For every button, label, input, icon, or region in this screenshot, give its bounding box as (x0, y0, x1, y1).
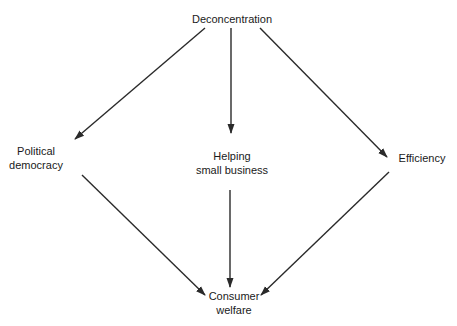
node-label: Efficiency (399, 151, 446, 165)
arrow-efficiency-to-consumer-welfare (261, 172, 389, 295)
node-label: Consumer (209, 289, 260, 303)
node-label: democracy (9, 158, 63, 172)
node-label: Deconcentration (192, 12, 272, 26)
arrow-political-democracy-to-consumer-welfare (82, 175, 205, 295)
arrow-deconcentration-to-political-democracy (75, 28, 205, 139)
node-label: Helping (196, 149, 268, 163)
node-consumer-welfare: Consumer welfare (209, 289, 260, 317)
node-political-democracy: Political democracy (9, 144, 63, 172)
node-label: Political (9, 144, 63, 158)
node-helping-small-business: Helping small business (196, 149, 268, 177)
arrow-deconcentration-to-efficiency (260, 28, 387, 157)
node-label: welfare (209, 303, 260, 317)
node-label: small business (196, 163, 268, 177)
node-efficiency: Efficiency (399, 151, 446, 165)
node-deconcentration: Deconcentration (192, 12, 272, 26)
